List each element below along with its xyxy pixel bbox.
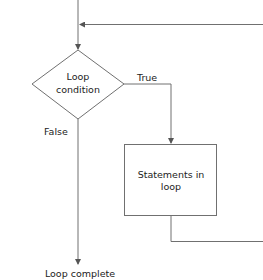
loop-back-connector-bottom: [171, 216, 263, 242]
true-branch-connector: [124, 84, 171, 143]
false-label: False: [44, 126, 68, 138]
condition-label-line1: Loop: [67, 71, 90, 83]
true-label: True: [137, 72, 157, 84]
condition-label-line2: condition: [56, 84, 100, 96]
statements-label-line1: Statements in: [138, 169, 205, 181]
statements-label-line2: loop: [161, 181, 181, 193]
loop-complete-label: Loop complete: [45, 268, 115, 280]
